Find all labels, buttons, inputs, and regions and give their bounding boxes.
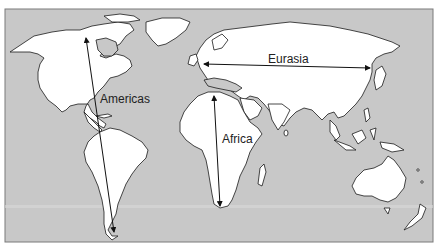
pacific-island (417, 169, 419, 171)
world-map-frame: Americas Eurasia Africa (4, 8, 435, 244)
pacific-island (421, 181, 423, 183)
africa-label: Africa (222, 132, 253, 146)
world-map: Americas Eurasia Africa (4, 8, 435, 244)
eurasia-label: Eurasia (268, 52, 309, 66)
sri-lanka (284, 130, 288, 136)
americas-label: Americas (100, 92, 150, 106)
